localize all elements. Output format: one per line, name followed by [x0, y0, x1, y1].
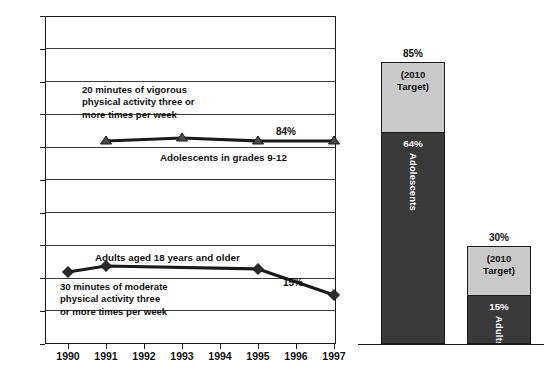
bar-group-label-adults: Adults [494, 316, 505, 343]
series-line-adolescents [106, 138, 334, 141]
bar-segment-target-adolescents: (2010 Target) [382, 63, 444, 132]
bar-total-label-adolescents: 85% [381, 48, 445, 59]
annotation-moderate: 30 minutes of moderate physical activity… [60, 281, 220, 318]
bar-segment-current-adolescents: 64% Adolescents [382, 132, 444, 343]
data-label-adolescents: 84% [276, 126, 296, 137]
bar-total-label-adults: 30% [467, 232, 531, 243]
bar-group-adolescents: 85% (2010 Target) 64% Adolescents [381, 0, 445, 376]
series-layer [0, 0, 340, 376]
bar-target-line2: Target) [397, 81, 429, 93]
marker-diamond [63, 267, 74, 278]
marker-diamond [253, 264, 264, 275]
series-label-adults: Adults aged 18 years and older [95, 252, 240, 263]
stacked-bar-adolescents: (2010 Target) 64% Adolescents [381, 62, 445, 344]
line-chart-panel: 100% 90% 80% 70% 60% 50% 40% 30% 20% 10%… [0, 0, 340, 376]
bar-current-value-adolescents: 64% [403, 138, 423, 149]
bar-chart-panel: 85% (2010 Target) 64% Adolescents 30% (2… [340, 0, 552, 376]
chart-root: 100% 90% 80% 70% 60% 50% 40% 30% 20% 10%… [0, 0, 552, 376]
marker-diamond [329, 290, 340, 301]
bar-current-value-adults: 15% [489, 301, 509, 312]
bar-target-line2: Target) [483, 265, 515, 277]
bar-target-line1: (2010 [487, 253, 512, 265]
bar-group-label-adolescents: Adolescents [408, 153, 419, 211]
stacked-bar-adults: (2010 Target) 15% Adults [467, 246, 531, 344]
series-label-adolescents: Adolescents in grades 9-12 [160, 152, 287, 163]
bar-group-adults: 30% (2010 Target) 15% Adults [467, 0, 531, 376]
bar-segment-current-adults: 15% Adults [468, 295, 530, 343]
bar-target-line1: (2010 [401, 69, 426, 81]
data-label-adults: 15% [283, 277, 303, 288]
annotation-vigorous: 20 minutes of vigorous physical activity… [82, 84, 232, 121]
bar-segment-target-adults: (2010 Target) [468, 247, 530, 295]
